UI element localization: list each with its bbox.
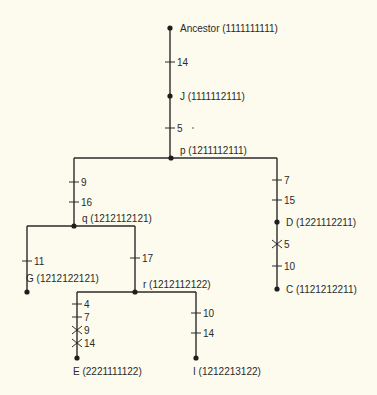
node-J xyxy=(167,93,172,98)
change-label: 4 xyxy=(84,299,90,310)
branch-lines xyxy=(27,28,277,358)
node-label-D: D (1221112211) xyxy=(286,217,356,228)
node-label-C: C (1121212211) xyxy=(286,284,357,295)
node-C xyxy=(274,286,279,291)
change-label: 14 xyxy=(84,338,96,349)
change-label: 5 xyxy=(284,239,290,250)
change-label: 5 xyxy=(177,123,183,134)
change-label: 9 xyxy=(84,325,90,336)
node-q xyxy=(71,223,76,228)
phylogenetic-tree: 1459167155101117479141014 Ancestor (1111… xyxy=(0,0,377,395)
node-label-r: r (1212112122) xyxy=(143,279,211,290)
change-label: 15 xyxy=(284,195,296,206)
change-label: 14 xyxy=(203,328,215,339)
change-label: 7 xyxy=(284,175,290,186)
node-r xyxy=(132,289,137,294)
node-p xyxy=(168,155,173,160)
node-labels: Ancestor (1111111111)J (1111112111)p (12… xyxy=(26,23,357,377)
change-label: 17 xyxy=(142,253,154,264)
change-label: 11 xyxy=(34,256,45,267)
node-label-G: G (1212122121) xyxy=(26,273,99,284)
node-G xyxy=(24,289,29,294)
node-D xyxy=(274,219,279,224)
node-label-I: I (1212213122) xyxy=(193,366,261,377)
change-label: 10 xyxy=(284,261,296,272)
node-E xyxy=(74,355,79,360)
node-points xyxy=(24,25,279,360)
change-label: 16 xyxy=(81,197,93,208)
change-label: 9 xyxy=(81,177,87,188)
change-label: 7 xyxy=(84,312,90,323)
node-I xyxy=(193,355,198,360)
node-label-p: p (1211112111) xyxy=(180,145,247,156)
node-label-E: E (2221111122) xyxy=(73,366,142,377)
node-label-q: q (1212112121) xyxy=(82,213,152,224)
node-ancestor xyxy=(167,25,172,30)
stray-mark xyxy=(192,127,193,128)
change-label: 10 xyxy=(203,308,215,319)
node-label-J: J (1111112111) xyxy=(180,91,245,102)
change-marks: 1459167155101117479141014 xyxy=(22,57,296,349)
node-label-ancestor: Ancestor (1111111111) xyxy=(180,23,278,34)
change-label: 14 xyxy=(177,57,189,68)
